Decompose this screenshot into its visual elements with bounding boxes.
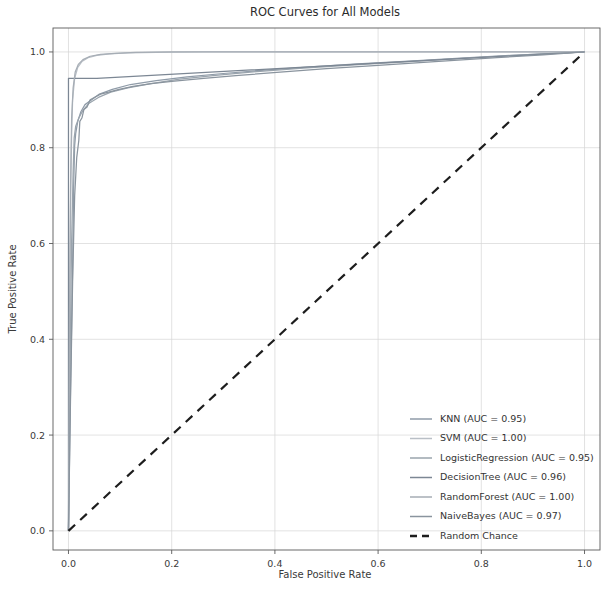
x-tick-label: 1.0 [577, 558, 592, 569]
legend-label-randomforest: RandomForest (AUC = 1.00) [440, 491, 574, 502]
y-axis-label: True Positive Rate [7, 244, 18, 334]
x-tick-label: 0.0 [61, 558, 76, 569]
x-tick-label: 0.4 [267, 558, 282, 569]
legend-label-naivebayes: NaiveBayes (AUC = 0.97) [440, 510, 561, 521]
y-tick-label: 0.6 [30, 238, 45, 249]
legend-label-knn: KNN (AUC = 0.95) [440, 413, 526, 424]
y-tick-label: 0.2 [30, 430, 45, 441]
x-tick-label: 0.6 [371, 558, 386, 569]
figure-background [0, 0, 611, 592]
x-tick-label: 0.2 [164, 558, 179, 569]
roc-chart-figure: ROC Curves for All Models 0.00.20.40.60.… [0, 0, 611, 592]
x-axis-label: False Positive Rate [279, 569, 372, 580]
chart-title: ROC Curves for All Models [250, 5, 400, 19]
y-tick-label: 0.8 [30, 142, 45, 153]
y-tick-label: 0.0 [30, 525, 45, 536]
roc-chart-canvas: ROC Curves for All Models 0.00.20.40.60.… [0, 0, 611, 592]
legend-label-random-chance: Random Chance [440, 530, 518, 541]
y-tick-label: 0.4 [30, 334, 45, 345]
legend-label-decisiontree: DecisionTree (AUC = 0.96) [440, 471, 566, 482]
y-tick-label: 1.0 [30, 46, 45, 57]
legend-label-svm: SVM (AUC = 1.00) [440, 432, 526, 443]
legend-label-logisticregression: LogisticRegression (AUC = 0.95) [440, 452, 594, 463]
x-tick-label: 0.8 [474, 558, 489, 569]
